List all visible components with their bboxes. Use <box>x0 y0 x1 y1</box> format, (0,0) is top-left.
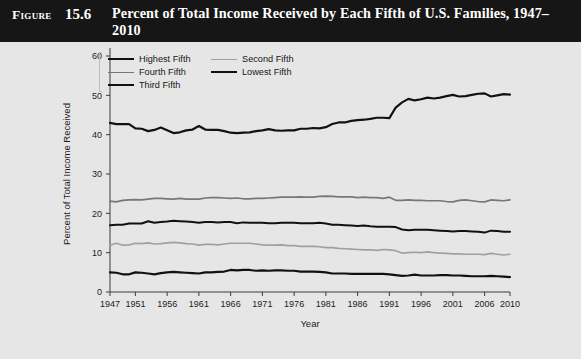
y-tick-label: 30 <box>92 169 102 179</box>
legend-item-fourth-fifth[interactable]: Fourth Fifth <box>108 67 186 77</box>
legend-label: Second Fifth <box>242 54 294 64</box>
y-tick-label: 50 <box>92 91 102 101</box>
legend-swatch-icon <box>211 71 237 73</box>
legend-label: Fourth Fifth <box>139 67 186 77</box>
page-title: Percent of Total Income Received by Each… <box>112 5 572 38</box>
y-tick-label: 40 <box>92 130 102 140</box>
x-tick-label: 1986 <box>348 299 368 309</box>
legend-swatch-icon <box>108 84 134 86</box>
x-tick-label: 2010 <box>500 299 520 309</box>
series-line-highest-fifth <box>110 93 510 133</box>
x-tick-label: 1991 <box>379 299 399 309</box>
x-tick-label: 1981 <box>316 299 336 309</box>
legend-label: Third Fifth <box>139 80 180 90</box>
y-tick-label: 0 <box>97 287 102 297</box>
series-line-fourth-fifth <box>110 196 510 202</box>
y-tick-label: 20 <box>92 209 102 219</box>
y-tick-label: 10 <box>92 248 102 258</box>
x-tick-label: 1976 <box>284 299 304 309</box>
y-axis-title: Percent of Total Income Received <box>61 103 72 245</box>
legend-item-third-fifth[interactable]: Third Fifth <box>108 80 180 90</box>
figure-title-bar: Figure 15.6 Percent of Total Income Rece… <box>0 0 581 42</box>
x-tick-label: 1996 <box>411 299 431 309</box>
x-tick-label: 1951 <box>125 299 145 309</box>
x-tick-label: 1956 <box>157 299 177 309</box>
figure-label: Figure <box>12 7 52 23</box>
x-tick-label: 2001 <box>443 299 463 309</box>
legend-label: Lowest Fifth <box>242 67 292 77</box>
x-tick-label: 2006 <box>475 299 495 309</box>
x-tick-label: 1961 <box>189 299 209 309</box>
legend-swatch-icon <box>108 72 134 73</box>
legend-bracket <box>99 52 102 92</box>
chart-legend: Highest FifthSecond FifthFourth FifthLow… <box>99 52 337 92</box>
figure-number: 15.6 <box>65 6 91 23</box>
series-line-lowest-fifth <box>110 270 510 277</box>
x-tick-label: 1971 <box>252 299 272 309</box>
x-tick-label: 1966 <box>221 299 241 309</box>
x-tick-label: 1947 <box>100 299 120 309</box>
series-line-second-fifth <box>110 242 510 255</box>
series-line-third-fifth <box>110 221 510 233</box>
legend-label: Highest Fifth <box>139 54 191 64</box>
legend-swatch-icon <box>108 58 134 60</box>
figure-container: Figure 15.6 Percent of Total Income Rece… <box>0 0 581 359</box>
chart-plot-area: 0102030405060194719511956196119661971197… <box>0 42 581 359</box>
legend-swatch-icon <box>211 59 237 60</box>
x-axis-title: Year <box>300 318 319 329</box>
legend-item-second-fifth[interactable]: Second Fifth <box>211 54 294 64</box>
legend-item-highest-fifth[interactable]: Highest Fifth <box>108 54 191 64</box>
legend-item-lowest-fifth[interactable]: Lowest Fifth <box>211 67 292 77</box>
